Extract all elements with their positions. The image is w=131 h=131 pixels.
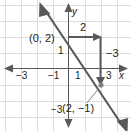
point-label-0-2: (0, 2) [29,33,55,44]
point-label-leader-line [87,88,99,103]
point-marker-2-neg1 [98,82,103,87]
rise-arrow-group [96,37,105,86]
y-tick-label-neg3: −3 [51,105,62,115]
y-axis-arrow-down [65,119,73,128]
coordinate-plane-figure: (0, 2) (2, −1) 2 −3 −3 −1 1 3 1 −3 x y [0,0,131,131]
y-axis-label: y [72,7,77,17]
y-tick-label-pos1: 1 [58,46,64,56]
x-tick-label-pos3: 3 [106,71,112,81]
point-label-2-neg1: (2, −1) [62,103,94,114]
rise-label: −3 [106,48,119,59]
x-tick-label-neg1: −1 [48,71,59,81]
x-tick-label-neg3: −3 [16,71,27,81]
run-label: 2 [80,22,86,33]
x-axis-label: x [119,71,124,81]
x-tick-label-pos1: 1 [75,71,81,81]
